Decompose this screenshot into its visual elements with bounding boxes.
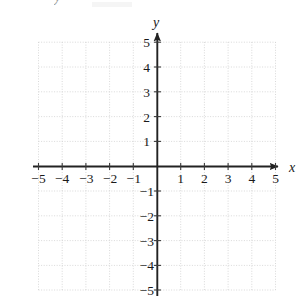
- x-tick-label-2: 2: [201, 171, 208, 186]
- y-tick-label-3: 3: [143, 85, 150, 100]
- y-tick-label-4: 4: [143, 60, 150, 75]
- y-tick-label--3: −3: [140, 234, 155, 249]
- x-tick-label--4: −4: [55, 171, 70, 186]
- x-tick-label-3: 3: [225, 171, 232, 186]
- y-tick-label--2: −2: [140, 209, 154, 224]
- x-tick-label--2: −2: [103, 171, 117, 186]
- x-tick-label-1: 1: [177, 171, 184, 186]
- y-tick-label-2: 2: [143, 110, 150, 125]
- x-axis-label: x: [288, 160, 296, 175]
- coordinate-plane-figure: y: [0, 0, 308, 304]
- y-tick-label--4: −4: [140, 258, 155, 273]
- y-axis-label: y: [151, 15, 160, 30]
- x-tick-label-4: 4: [248, 171, 255, 186]
- x-tick-label--5: −5: [31, 171, 46, 186]
- y-tick-label-5: 5: [143, 35, 150, 50]
- x-tick-label-5: 5: [272, 171, 279, 186]
- y-tick-label--1: −1: [140, 184, 154, 199]
- coordinate-grid-svg: −5 −4 −3 −2 −1 1 2 3 4 5 5 4 3 2 1 −1 −2…: [0, 0, 308, 304]
- y-tick-label-1: 1: [143, 134, 150, 149]
- x-tick-label--3: −3: [79, 171, 94, 186]
- y-tick-label--5: −5: [140, 283, 155, 298]
